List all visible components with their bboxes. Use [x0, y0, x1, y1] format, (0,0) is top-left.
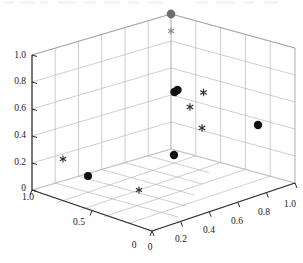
circle-marker-group — [84, 10, 262, 180]
data-point-circle-4 — [84, 172, 92, 180]
y-tick-label-4: 0.8 — [258, 207, 270, 217]
data-point-star-2 — [187, 103, 194, 111]
floor-pane-grid — [32, 149, 295, 231]
data-point-star-4 — [60, 155, 66, 162]
y-tick-label-2: 0.4 — [203, 225, 215, 235]
pane-edges — [32, 14, 295, 190]
scatter3d-plot: 1.00.80.60.40.20 1.00.50 00.20.40.60.81.… — [0, 0, 303, 263]
z-tick-label-0: 1.0 — [14, 50, 26, 60]
data-point-circle-1 — [173, 86, 181, 94]
data-point-circle-5 — [167, 10, 176, 19]
data-point-circle-2 — [254, 121, 262, 129]
z-tick-label-4: 0.2 — [14, 157, 26, 167]
y-axis-line — [152, 183, 295, 231]
y-tick-label-3: 0.6 — [231, 216, 243, 226]
z-tick-label-1: 0.8 — [14, 76, 26, 86]
data-point-star-3 — [199, 124, 206, 132]
z-tick-label-3: 0.4 — [14, 130, 26, 140]
plot-canvas: 1.00.80.60.40.20 1.00.50 00.20.40.60.81.… — [0, 0, 303, 263]
y-tick-label-0: 0 — [148, 242, 153, 252]
x-tick-label-1: 0.5 — [73, 217, 85, 227]
x-tick-label-2: 0 — [132, 240, 137, 250]
z-axis-tick-labels: 1.00.80.60.40.20 — [14, 50, 26, 193]
y-tick-label-1: 0.2 — [175, 234, 187, 244]
x-tick-label-0: 1.0 — [22, 192, 34, 202]
z-tick-label-2: 0.6 — [14, 103, 26, 113]
data-point-circle-3 — [170, 151, 178, 159]
star-marker-group — [60, 28, 207, 194]
data-point-star-0 — [168, 28, 174, 35]
y-tick-label-5: 1.0 — [284, 199, 296, 209]
top-artifact-row — [4, 1, 278, 4]
data-point-star-1 — [200, 89, 207, 97]
back-left-pane-grid — [32, 14, 171, 190]
